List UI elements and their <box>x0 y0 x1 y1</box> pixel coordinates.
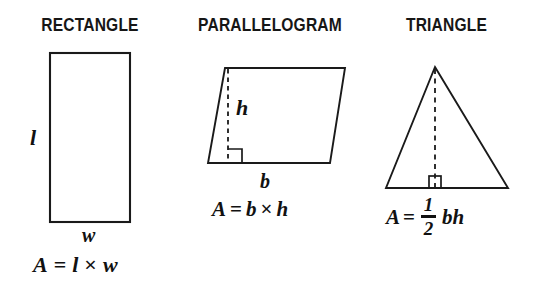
shape-panel-triangle: TRIANGLE A = 1 2 bh <box>360 0 533 296</box>
triangle-outline <box>386 67 508 188</box>
parallelogram-right-angle-marker <box>228 149 242 163</box>
rectangle-length-label: l <box>30 125 36 151</box>
rectangle-outline <box>50 53 130 222</box>
shape-panel-rectangle: RECTANGLE l w A = l × w <box>0 0 180 296</box>
parallelogram-figure <box>180 0 360 296</box>
triangle-area-formula: A = 1 2 bh <box>386 196 464 239</box>
triangle-formula-equals: = <box>403 205 415 230</box>
parallelogram-formula-equals: = <box>230 197 242 222</box>
rectangle-formula-second-term: w <box>103 252 118 278</box>
rectangle-area-formula: A = l × w <box>33 252 118 278</box>
triangle-figure <box>360 0 533 296</box>
fraction-numerator: 1 <box>422 195 436 214</box>
triangle-formula-lhs: A <box>386 205 400 230</box>
geometry-area-diagram: RECTANGLE l w A = l × w PARALLELOGRAM h … <box>0 0 533 296</box>
rectangle-formula-lhs: A <box>33 252 48 278</box>
rectangle-formula-first-term: l <box>72 252 78 278</box>
parallelogram-formula-operator: × <box>260 197 272 222</box>
shape-panel-parallelogram: PARALLELOGRAM h b A = b × h <box>180 0 360 296</box>
rectangle-formula-equals: = <box>54 252 67 278</box>
parallelogram-area-formula: A = b × h <box>212 197 288 222</box>
parallelogram-formula-lhs: A <box>212 197 226 222</box>
parallelogram-formula-first-term: b <box>246 197 257 222</box>
parallelogram-height-label: h <box>236 95 248 121</box>
parallelogram-base-label: b <box>260 170 270 193</box>
triangle-formula-trailing-terms: bh <box>442 205 464 230</box>
triangle-formula-one-half-fraction: 1 2 <box>421 195 436 238</box>
rectangle-formula-operator: × <box>84 252 97 278</box>
fraction-denominator: 2 <box>422 219 436 238</box>
rectangle-width-label: w <box>82 224 95 247</box>
parallelogram-formula-second-term: h <box>276 197 288 222</box>
